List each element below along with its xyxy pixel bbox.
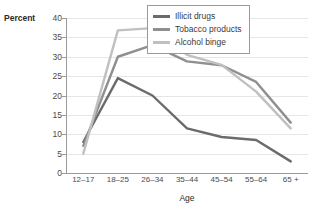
- y-axis-tick-label: 40: [53, 14, 62, 23]
- line-chart: Percent 0510152025303540 12–1718–2526–34…: [0, 0, 331, 215]
- y-axis-tick-labels: 0510152025303540: [0, 18, 62, 173]
- y-axis-tick-label: 35: [53, 33, 62, 42]
- x-axis-title: Age: [66, 193, 308, 203]
- x-axis-tick-label: 12–17: [72, 176, 94, 184]
- y-axis-tick: [62, 173, 66, 174]
- legend-swatch-icon: [153, 41, 170, 44]
- legend-item[interactable]: Tobacco products: [153, 23, 242, 36]
- series-line: [83, 78, 290, 161]
- legend-swatch-icon: [153, 15, 170, 18]
- legend-item[interactable]: Illicit drugs: [153, 10, 242, 23]
- y-axis-tick: [62, 115, 66, 116]
- y-axis-tick: [62, 134, 66, 135]
- y-axis-tick: [62, 18, 66, 19]
- y-axis-tick: [62, 154, 66, 155]
- y-axis-tick-label: 20: [53, 91, 62, 100]
- x-axis-tick-label: 26–34: [141, 176, 163, 184]
- y-axis-tick-label: 10: [53, 130, 62, 139]
- y-axis-tick: [62, 37, 66, 38]
- legend-label: Illicit drugs: [175, 12, 215, 21]
- y-axis-tick-label: 30: [53, 53, 62, 62]
- y-axis-tick-label: 15: [53, 111, 62, 120]
- y-axis-tick: [62, 96, 66, 97]
- x-axis-tick-label: 18–25: [107, 176, 129, 184]
- chart-legend: Illicit drugsTobacco productsAlcohol bin…: [147, 5, 250, 54]
- x-axis-tick-label: 45–54: [210, 176, 232, 184]
- y-axis-tick: [62, 76, 66, 77]
- legend-item[interactable]: Alcohol binge: [153, 36, 242, 49]
- y-axis-tick-label: 25: [53, 72, 62, 81]
- legend-swatch-icon: [153, 28, 170, 31]
- y-axis-tick: [62, 57, 66, 58]
- x-axis-line: [66, 173, 308, 174]
- x-axis-tick-label: 55–64: [245, 176, 267, 184]
- x-axis-tick-labels: 12–1718–2526–3435–4445–5455–6465 +: [66, 176, 308, 190]
- x-axis-tick-label: 35–44: [176, 176, 198, 184]
- x-axis-tick-label: 65 +: [283, 176, 299, 184]
- legend-label: Tobacco products: [175, 25, 242, 34]
- legend-label: Alcohol binge: [175, 38, 226, 47]
